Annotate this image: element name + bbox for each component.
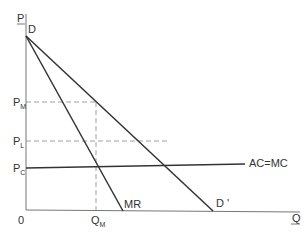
acmc-line	[26, 164, 245, 168]
x-axis	[26, 210, 300, 212]
acmc-label: AC=MC	[249, 157, 288, 169]
qm-label: QM	[91, 214, 106, 228]
pl-label: PL	[13, 135, 24, 149]
pc-label: PC	[13, 162, 25, 176]
origin-label: 0	[18, 214, 24, 226]
mr-label: MR	[124, 198, 141, 210]
mr-line	[26, 36, 123, 211]
monopoly-chart: P D PM PL PC 0 QM MR D ' AC=MC Q	[0, 0, 308, 239]
demand-line	[26, 36, 213, 211]
p-axis-label: P	[17, 12, 24, 24]
q-axis-label: Q	[292, 212, 301, 224]
d-prime-label: D '	[216, 197, 229, 209]
pm-label: PM	[13, 96, 26, 110]
d-label: D	[28, 23, 36, 35]
